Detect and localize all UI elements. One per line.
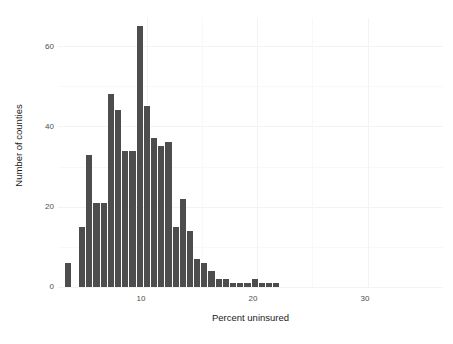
y-tick-60: 60 <box>45 43 54 51</box>
histogram-bar <box>137 26 143 287</box>
histogram-bar <box>266 283 272 287</box>
histogram-bar <box>230 283 236 287</box>
histogram-bar <box>244 283 250 287</box>
x-tick-30: 30 <box>361 295 370 303</box>
histogram-bar <box>101 203 107 287</box>
y-axis-title: Number of counties <box>13 76 24 216</box>
x-axis-tick-labels: 10 20 30 <box>0 295 453 307</box>
y-tick-0: 0 <box>50 283 54 291</box>
histogram-bar <box>216 279 222 287</box>
histogram-bar <box>173 227 179 287</box>
histogram-bar <box>151 138 157 287</box>
histogram-bar <box>208 271 214 287</box>
histogram-bar <box>273 283 279 287</box>
histogram-bar <box>194 259 200 287</box>
x-tick-10: 10 <box>137 295 146 303</box>
histogram-bar <box>252 279 258 287</box>
histogram-bar <box>86 155 92 287</box>
histogram-bar <box>122 151 128 288</box>
x-tick-20: 20 <box>249 295 258 303</box>
gridline-h-0 <box>58 287 443 288</box>
y-axis-tick-labels: 0 20 40 60 <box>30 0 54 344</box>
plot-panel <box>58 18 443 287</box>
histogram-figure: 0 20 40 60 10 20 30 Percent uninsured Nu… <box>0 0 453 344</box>
histogram-bar <box>108 94 114 287</box>
bar-series <box>58 18 443 287</box>
y-tick-40: 40 <box>45 123 54 131</box>
histogram-bar <box>259 283 265 287</box>
histogram-bar <box>187 231 193 287</box>
histogram-bar <box>115 110 121 287</box>
histogram-bar <box>129 151 135 288</box>
histogram-bar <box>93 203 99 287</box>
histogram-bar <box>180 199 186 287</box>
histogram-bar <box>144 106 150 287</box>
histogram-bar <box>65 263 71 287</box>
histogram-bar <box>201 263 207 287</box>
y-tick-20: 20 <box>45 203 54 211</box>
histogram-bar <box>165 142 171 287</box>
histogram-bar <box>79 227 85 287</box>
histogram-bar <box>237 283 243 287</box>
histogram-bar <box>223 279 229 287</box>
histogram-bar <box>158 146 164 287</box>
x-axis-title: Percent uninsured <box>58 312 443 323</box>
